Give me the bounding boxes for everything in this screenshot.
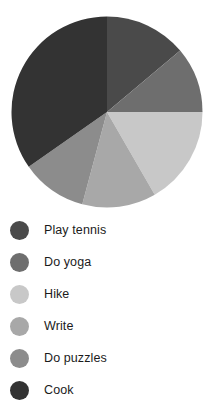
legend-color-swatch (10, 253, 29, 272)
legend-color-swatch (10, 317, 29, 336)
legend-item[interactable]: Cook (0, 374, 207, 406)
legend-item[interactable]: Do yoga (0, 246, 207, 278)
legend-item-label: Write (44, 320, 73, 333)
legend-color-swatch (10, 381, 29, 400)
legend-item-label: Do puzzles (44, 352, 107, 365)
legend-item-label: Cook (44, 384, 74, 397)
legend-item-label: Hike (44, 288, 69, 301)
legend-item[interactable]: Play tennis (0, 214, 207, 246)
legend-item-label: Play tennis (44, 224, 106, 237)
pie-chart-page: Play tennisDo yogaHikeWriteDo puzzlesCoo… (0, 0, 207, 418)
legend-item-label: Do yoga (44, 256, 91, 269)
pie-chart-area (0, 0, 207, 212)
chart-legend: Play tennisDo yogaHikeWriteDo puzzlesCoo… (0, 214, 207, 418)
legend-color-swatch (10, 285, 29, 304)
legend-color-swatch (10, 221, 29, 240)
legend-item[interactable]: Hike (0, 278, 207, 310)
pie-chart (0, 0, 207, 212)
legend-item[interactable]: Write (0, 310, 207, 342)
pie-wedge-group (11, 16, 202, 207)
legend-item[interactable]: Do puzzles (0, 342, 207, 374)
legend-color-swatch (10, 349, 29, 368)
